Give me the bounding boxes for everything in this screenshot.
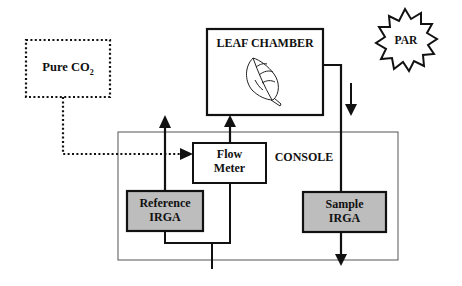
- sample-irga-label: Sample IRGA: [303, 198, 386, 226]
- flow-meter-label: Flow Meter: [193, 148, 266, 176]
- pure-co2-label: Pure CO2: [26, 60, 110, 77]
- reference-irga-line1: Reference: [127, 197, 203, 211]
- reference-irga-label: Reference IRGA: [127, 197, 203, 225]
- flow-meter-line2: Meter: [193, 162, 266, 176]
- par-label: PAR: [388, 34, 424, 47]
- flow-direction-arrowhead: [345, 104, 357, 116]
- reference-irga-line2: IRGA: [127, 211, 203, 225]
- chamber-to-sample-line: [323, 65, 341, 192]
- sample-irga-line2: IRGA: [303, 212, 386, 226]
- sample-irga-line1: Sample: [303, 198, 386, 212]
- reference-exhaust-arrowhead: [159, 115, 171, 128]
- leaf-chamber-label: LEAF CHAMBER: [207, 37, 323, 51]
- flow-meter-line1: Flow: [193, 148, 266, 162]
- console-label: CONSOLE: [272, 151, 336, 165]
- flowmeter-to-chamber-arrowhead: [224, 115, 236, 127]
- co2-arrowhead: [180, 148, 193, 160]
